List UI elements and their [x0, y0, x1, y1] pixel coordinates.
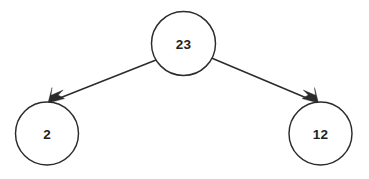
- arrowhead-right-icon: [302, 88, 319, 103]
- binary-tree-diagram: 23 2 12: [0, 0, 369, 179]
- node-label-left: 2: [43, 127, 51, 142]
- edge-line-root-right: [212, 58, 313, 101]
- tree-node-left[interactable]: 2: [16, 102, 79, 165]
- node-label-right: 12: [313, 127, 328, 142]
- edge-root-to-left: [48, 60, 156, 103]
- edge-line-root-left: [54, 60, 157, 101]
- node-label-root: 23: [176, 37, 192, 52]
- tree-node-right[interactable]: 12: [289, 102, 352, 165]
- edge-root-to-right: [212, 58, 319, 103]
- tree-node-root[interactable]: 23: [152, 12, 216, 76]
- tree-canvas: 23 2 12: [0, 0, 369, 179]
- arrowhead-left-icon: [48, 88, 65, 103]
